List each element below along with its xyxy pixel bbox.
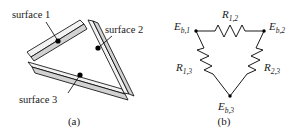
plate-surface-3-edge xyxy=(28,62,125,94)
resistor-r12-label: R1,2 xyxy=(221,8,238,23)
resistor-r12-element xyxy=(196,25,264,37)
panel-b-network: Eb,1 Eb,2 Eb,3 R1,2 R1,3 R2,3 (b) xyxy=(173,8,285,128)
panel-a-enclosure: surface 1 surface 2 surface 3 (a) xyxy=(12,9,143,128)
resistor-r13-subscript: 1,3 xyxy=(183,67,193,76)
node-eb1-label: Eb,1 xyxy=(173,20,190,35)
node-eb2-dot xyxy=(262,29,265,32)
panel-a-caption: (a) xyxy=(68,115,81,128)
resistor-r13-element xyxy=(196,31,230,96)
surface-1-label: surface 1 xyxy=(12,9,50,20)
node-eb3-dot xyxy=(228,94,231,97)
panel-b-caption: (b) xyxy=(218,115,231,128)
plate-surface-1-edge xyxy=(27,20,84,57)
node-eb2-label: Eb,2 xyxy=(268,20,285,35)
node-eb3-label: Eb,3 xyxy=(217,100,234,115)
resistor-r23-element xyxy=(230,31,264,96)
resistor-r12-subscript: 1,2 xyxy=(229,14,239,23)
resistor-r23-subscript: 2,3 xyxy=(271,67,281,76)
resistor-r13-label: R1,3 xyxy=(175,61,192,76)
node-eb1-dot xyxy=(194,29,197,32)
surface-2-label: surface 2 xyxy=(105,24,143,35)
figure-root: surface 1 surface 2 surface 3 (a) Eb,1 E… xyxy=(0,0,297,132)
node-eb3-subscript: b,3 xyxy=(225,106,235,115)
node-eb1-subscript: b,1 xyxy=(181,26,190,35)
figure-canvas: surface 1 surface 2 surface 3 (a) Eb,1 E… xyxy=(0,0,297,132)
node-eb2-subscript: b,2 xyxy=(276,26,286,35)
resistor-r23-label: R2,3 xyxy=(263,61,280,76)
surface-3-label: surface 3 xyxy=(19,94,57,105)
